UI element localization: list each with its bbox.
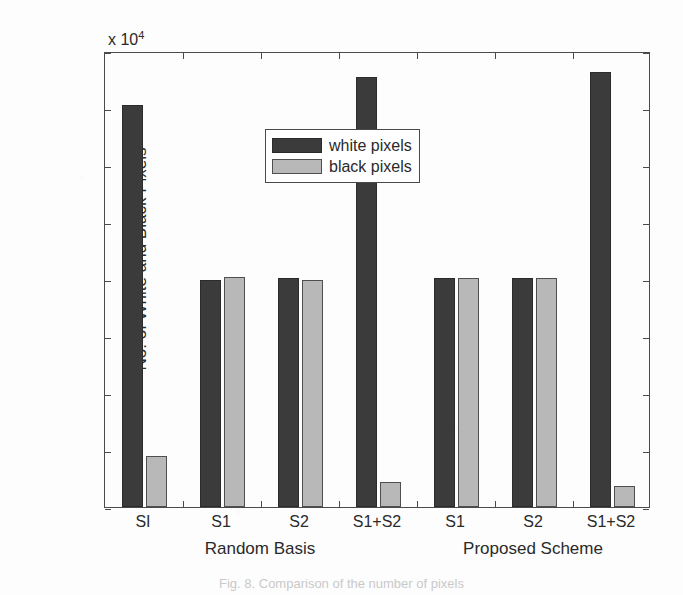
figure-caption: Fig. 8. Comparison of the number of pixe… bbox=[0, 576, 683, 591]
x-axis-tick bbox=[573, 501, 574, 507]
y-axis-tick bbox=[105, 281, 111, 282]
x-axis-tick-label: S1+S2 bbox=[587, 514, 635, 530]
x-axis-tick-label: S2 bbox=[523, 514, 543, 530]
bar-black-pixels bbox=[614, 486, 635, 507]
bar-white-pixels bbox=[278, 278, 299, 507]
y-axis-tick-right bbox=[643, 53, 649, 54]
legend-item-white-pixels: white pixels bbox=[272, 135, 412, 156]
y-axis-tick bbox=[105, 452, 111, 453]
chart-legend: white pixels black pixels bbox=[265, 129, 420, 183]
x-axis-tick-label: S1 bbox=[445, 514, 465, 530]
plot-area: No. of White and Black Pixels 00.511.522… bbox=[104, 52, 650, 508]
x-axis-tick-top bbox=[261, 53, 262, 59]
bar-white-pixels bbox=[200, 280, 221, 507]
y-axis-tick-right bbox=[643, 338, 649, 339]
x-axis-tick bbox=[261, 501, 262, 507]
legend-label-black-pixels: black pixels bbox=[329, 159, 412, 175]
x-axis-tick-label: SI bbox=[135, 514, 150, 530]
bar-white-pixels bbox=[122, 105, 143, 507]
bar-white-pixels bbox=[590, 72, 611, 507]
y-axis-tick-right bbox=[643, 452, 649, 453]
y-axis-tick-right bbox=[643, 509, 649, 510]
bar-chart-figure: x 104 No. of White and Black Pixels 00.5… bbox=[0, 0, 683, 595]
y-axis-tick-right bbox=[643, 395, 649, 396]
y-axis-tick bbox=[105, 509, 111, 510]
y-axis-exponent-base: x 10 bbox=[108, 31, 138, 48]
y-axis-tick-right bbox=[643, 281, 649, 282]
y-axis-tick bbox=[105, 167, 111, 168]
y-axis-exponent-label: x 104 bbox=[108, 27, 144, 48]
bar-white-pixels bbox=[512, 278, 533, 507]
legend-swatch-black-pixels bbox=[272, 159, 322, 174]
bar-black-pixels bbox=[380, 482, 401, 507]
x-axis-group-label: Proposed Scheme bbox=[463, 540, 603, 557]
legend-item-black-pixels: black pixels bbox=[272, 156, 412, 177]
x-axis-tick bbox=[339, 501, 340, 507]
y-axis-tick bbox=[105, 110, 111, 111]
bar-black-pixels bbox=[458, 278, 479, 507]
legend-swatch-white-pixels bbox=[272, 138, 322, 153]
y-axis-exponent-power: 4 bbox=[138, 29, 144, 41]
y-axis-tick-right bbox=[643, 110, 649, 111]
x-axis-tick-top bbox=[339, 53, 340, 59]
legend-label-white-pixels: white pixels bbox=[329, 138, 412, 154]
x-axis-tick-top bbox=[495, 53, 496, 59]
bar-black-pixels bbox=[146, 456, 167, 507]
x-axis-tick bbox=[495, 501, 496, 507]
x-axis-tick-label: S1+S2 bbox=[353, 514, 401, 530]
x-axis-tick-top bbox=[417, 53, 418, 59]
y-axis-tick bbox=[105, 53, 111, 54]
y-axis-tick bbox=[105, 338, 111, 339]
y-axis-tick-right bbox=[643, 167, 649, 168]
x-axis-tick-label: S1 bbox=[211, 514, 231, 530]
x-axis-tick-top bbox=[183, 53, 184, 59]
bar-black-pixels bbox=[302, 280, 323, 507]
x-axis-tick bbox=[417, 501, 418, 507]
bar-white-pixels bbox=[434, 278, 455, 507]
x-axis-tick-label: S2 bbox=[289, 514, 309, 530]
x-axis-tick-top bbox=[573, 53, 574, 59]
bar-black-pixels bbox=[224, 277, 245, 507]
y-axis-tick-right bbox=[643, 224, 649, 225]
x-axis-group-label: Random Basis bbox=[205, 540, 316, 557]
bar-black-pixels bbox=[536, 278, 557, 507]
y-axis-tick bbox=[105, 395, 111, 396]
x-axis-tick bbox=[183, 501, 184, 507]
y-axis-tick bbox=[105, 224, 111, 225]
